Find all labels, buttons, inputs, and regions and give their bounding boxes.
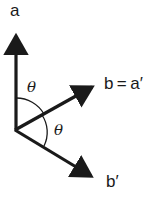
label-b-equals-a-prime: b = a′ xyxy=(104,75,143,92)
label-theta-lower: θ xyxy=(54,123,63,138)
angle-arc-upper xyxy=(16,98,44,114)
vector-b-prime xyxy=(15,130,91,176)
angle-arc-lower xyxy=(42,115,47,146)
label-b-prime: b′ xyxy=(106,173,119,190)
label-theta-upper: θ xyxy=(27,80,36,95)
label-a: a xyxy=(10,2,19,19)
vector-diagram xyxy=(0,0,162,201)
